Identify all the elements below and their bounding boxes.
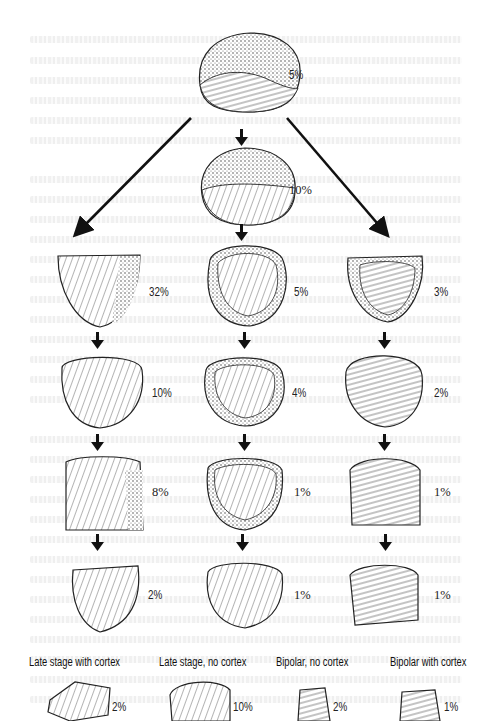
percent-left-row3: 8%	[152, 485, 169, 500]
core-late-cortex-icon	[48, 682, 110, 721]
core-left-row1-icon	[58, 255, 140, 327]
core-center-row4-icon	[207, 563, 282, 628]
core-center-row3-icon	[207, 458, 282, 530]
percent-center-row4: 1%	[294, 588, 311, 603]
core-left-row2-icon	[62, 357, 143, 428]
core-bipolar-nocortex-icon	[298, 688, 330, 721]
arrow-left-branch	[80, 118, 191, 230]
percent-late-nocortex: 10%	[233, 700, 253, 714]
percent-bipolar-cortex: 1%	[444, 700, 458, 714]
core-right-row3-icon	[350, 459, 420, 525]
core-center-row2-icon	[205, 358, 284, 426]
percent-right-row1: 3%	[434, 285, 448, 299]
core-right-row1-icon	[348, 256, 423, 322]
core-left-row3-icon	[66, 457, 143, 530]
percent-late-cortex: 2%	[112, 700, 126, 714]
percent-bipolar-nocortex: 2%	[333, 700, 347, 714]
core-right-row2-icon	[346, 356, 423, 427]
reduction-diagram	[0, 0, 484, 721]
core-left-row4-icon	[72, 566, 138, 632]
core-bipolar-cortex-icon	[400, 690, 440, 721]
label-late-nocortex: Late stage, no cortex	[159, 655, 246, 669]
percent-stage2: 10%	[289, 183, 312, 198]
label-bipolar-nocortex: Bipolar, no cortex	[276, 655, 348, 669]
percent-initial: 5%	[289, 68, 303, 82]
percent-right-row3: 1%	[434, 485, 451, 500]
core-right-row4-icon	[350, 565, 418, 625]
label-bipolar-cortex: Bipolar with cortex	[390, 655, 466, 669]
label-late-cortex: Late stage with cortex	[29, 655, 120, 669]
core-stage2-icon	[201, 148, 295, 225]
arrow-down-icon	[235, 129, 248, 146]
percent-left-row2: 10%	[152, 386, 172, 400]
core-initial-icon	[199, 33, 300, 112]
percent-center-row1: 5%	[294, 285, 308, 299]
percent-center-row3: 1%	[294, 485, 311, 500]
core-late-nocortex-icon	[170, 682, 230, 721]
arrow-right-branch	[287, 118, 383, 230]
core-center-row1-icon	[208, 246, 286, 326]
percent-center-row2: 4%	[292, 386, 306, 400]
percent-right-row2: 2%	[434, 386, 448, 400]
percent-left-row4: 2%	[148, 588, 162, 602]
percent-left-row1: 32%	[149, 285, 169, 299]
percent-right-row4: 1%	[434, 588, 451, 603]
